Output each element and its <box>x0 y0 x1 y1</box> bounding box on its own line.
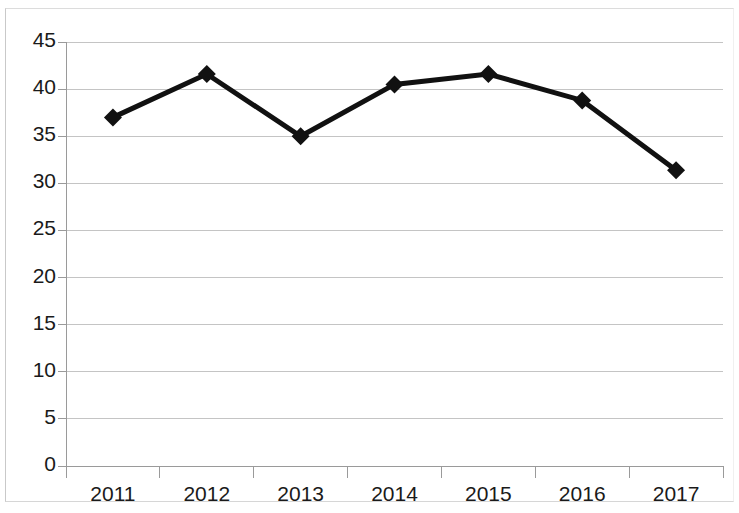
y-axis-tick-label: 30 <box>10 169 56 193</box>
y-tick-marks-group <box>58 42 66 466</box>
y-axis-tick-label: 40 <box>10 75 56 99</box>
y-axis-tick-label: 0 <box>10 452 56 476</box>
line-chart: 051015202530354045 201120122013201420152… <box>0 0 739 513</box>
y-axis-tick-label: 20 <box>10 264 56 288</box>
y-axis-tick-label: 35 <box>10 122 56 146</box>
x-axis-tick-label: 2013 <box>251 482 351 506</box>
x-axis-tick-label: 2016 <box>532 482 632 506</box>
x-tick-marks-group <box>66 466 723 478</box>
x-axis-tick-label: 2017 <box>626 482 726 506</box>
gridlines-group <box>66 42 723 466</box>
y-axis-tick-label: 25 <box>10 216 56 240</box>
x-axis-tick-label: 2014 <box>345 482 445 506</box>
y-axis-tick-label: 45 <box>10 28 56 52</box>
y-axis-tick-label: 10 <box>10 358 56 382</box>
y-axis-tick-label: 5 <box>10 405 56 429</box>
data-point-marker <box>104 108 122 126</box>
data-point-marker <box>479 65 497 83</box>
x-axis-tick-label: 2012 <box>157 482 257 506</box>
y-axis-tick-label: 15 <box>10 311 56 335</box>
x-axis-tick-label: 2011 <box>63 482 163 506</box>
x-axis-tick-label: 2015 <box>438 482 538 506</box>
plot-area <box>0 0 739 513</box>
